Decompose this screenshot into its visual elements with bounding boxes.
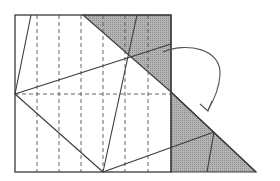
fold-diagram <box>0 0 280 181</box>
left-top-edge-line <box>15 15 31 94</box>
top-right-flap <box>83 15 171 92</box>
left-to-bottom-diagonal <box>15 94 103 172</box>
valley-fold-lines <box>15 15 171 172</box>
